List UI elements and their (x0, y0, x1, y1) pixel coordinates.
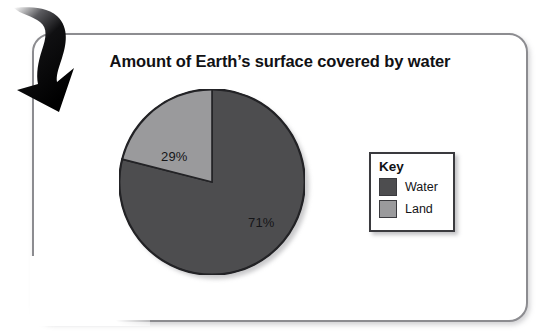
legend-label-land: Land (405, 200, 433, 218)
pie-chart: 29% 71% (119, 89, 305, 275)
legend-key-box: Key Water Land (369, 152, 455, 232)
pie-label-land: 29% (161, 149, 188, 164)
legend-swatch-water (379, 178, 397, 196)
chart-title: Amount of Earth’s surface covered by wat… (34, 52, 526, 71)
figure-page: Amount of Earth’s surface covered by wat… (0, 0, 543, 332)
legend-title: Key (379, 159, 453, 175)
legend-item-land[interactable]: Land (379, 200, 453, 218)
pie-label-water: 71% (248, 215, 275, 230)
cropped-text-above (0, 0, 543, 4)
legend-item-water[interactable]: Water (379, 178, 453, 196)
chart-panel: Amount of Earth’s surface covered by wat… (32, 33, 528, 322)
pie-svg (119, 89, 305, 275)
legend-swatch-land (379, 200, 397, 218)
legend-label-water: Water (405, 178, 438, 196)
